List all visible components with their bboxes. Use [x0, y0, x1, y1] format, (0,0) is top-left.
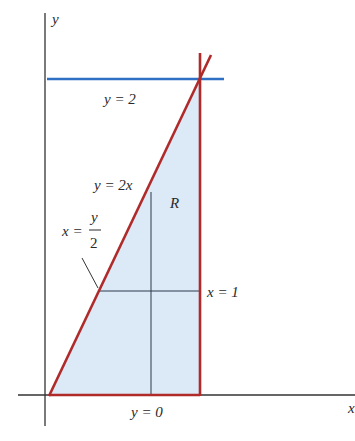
label-region-r: R — [169, 195, 179, 211]
label-fraction-denominator: 2 — [90, 235, 98, 251]
label-fraction-numerator: y — [89, 209, 98, 225]
label-pointer — [82, 258, 98, 288]
label-x-equals-1: x = 1 — [206, 284, 239, 300]
x-axis-label: x — [347, 400, 355, 416]
y-axis-label: y — [50, 11, 59, 27]
label-y-equals-2x: y = 2x — [92, 177, 133, 193]
label-y-equals-0: y = 0 — [129, 404, 163, 420]
label-y-equals-2: y = 2 — [102, 91, 136, 107]
region-diagram: y x y = 2 y = 2x x = y 2 R x = 1 y = 0 — [0, 0, 355, 441]
label-x-equals: x = — [61, 223, 83, 239]
